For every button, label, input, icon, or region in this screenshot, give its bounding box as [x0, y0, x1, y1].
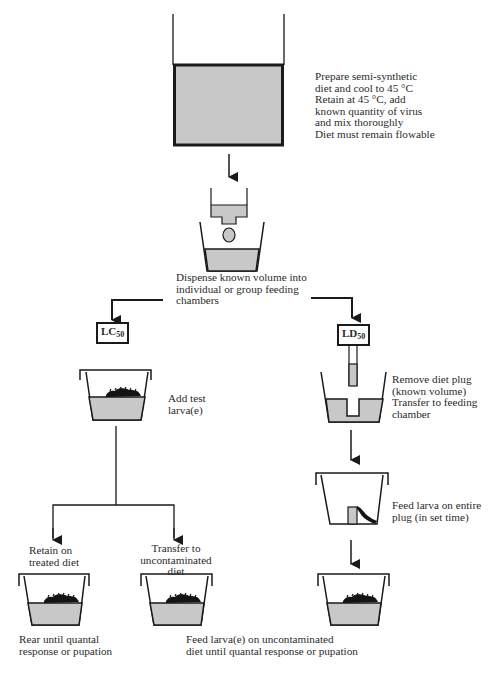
- ld50-label: LD50: [337, 324, 370, 346]
- transfer-uncontaminated-text: Transfer to uncontaminated diet: [136, 543, 216, 578]
- lc50-label-main: LC: [101, 325, 116, 337]
- rear-until-response-text: Rear until quantal response or pupation: [19, 634, 112, 657]
- prepare-diet-text: Prepare semi-synthetic diet and cool to …: [315, 71, 435, 141]
- dispenser-icon: [200, 188, 264, 271]
- mixing-vessel-icon: [173, 14, 284, 145]
- ld50-label-main: LD: [342, 327, 357, 339]
- lc50-feeding-cup-icon: [80, 370, 151, 420]
- feed-plug-cup-icon: [316, 473, 388, 524]
- transfer-cup-icon: [141, 574, 212, 625]
- lc50-label-sub: 50: [116, 330, 124, 339]
- ld50-plug-cup-icon: [321, 342, 386, 422]
- dispense-text: Dispense known volume into individual or…: [176, 272, 307, 307]
- feed-plug-text: Feed larva on entire plug (in set time): [392, 500, 481, 523]
- retain-treated-diet-text: Retain on treated diet: [29, 545, 79, 568]
- add-larvae-text: Add test larva(e): [168, 393, 206, 416]
- lc50-label: LC50: [96, 322, 129, 344]
- retain-cup-icon: [19, 574, 89, 625]
- final-feed-text: Feed larva(e) on uncontaminated diet unt…: [186, 634, 358, 657]
- final-ld50-cup-icon: [318, 574, 389, 625]
- ld50-label-sub: 50: [357, 332, 365, 341]
- remove-plug-text: Remove diet plug (known volume) Transfer…: [392, 374, 477, 420]
